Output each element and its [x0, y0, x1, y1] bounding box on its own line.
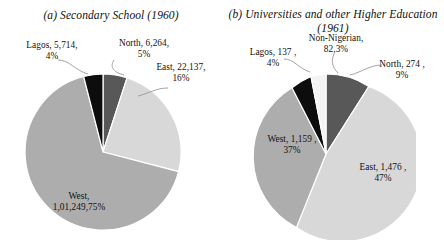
chart-title-b: (b) Universities and other Higher Educat…: [222, 7, 444, 35]
pie-label-west-b: West, 1,159 , 37%: [244, 134, 340, 156]
leader-line-north-a: [108, 58, 136, 78]
chart-panel-universities: (b) Universities and other Higher Educat…: [222, 0, 444, 249]
leader-line-east-a: [138, 86, 168, 100]
leader-line-non-nigerian-b: [326, 53, 348, 75]
pie-label-north-a: North, 6,264, 5%: [98, 38, 190, 60]
chart-panel-secondary-school: (a) Secondary School (1960) Lagos, 5,714…: [0, 0, 222, 249]
pie-label-non-nigerian-b: Non-Nigerian, 82,3%: [284, 33, 388, 55]
pie-label-west-a: West, 1,01,249,75%: [24, 191, 134, 213]
pie-label-east-a: East, 22,137, 16%: [140, 62, 222, 84]
pie-label-lagos-a: Lagos, 5,714, 4%: [4, 40, 100, 62]
chart-title-a: (a) Secondary School (1960): [0, 8, 222, 22]
pie-label-north-b: North, 274 , 9%: [360, 59, 444, 81]
pie-label-east-b: East, 1,476 , 47%: [335, 162, 431, 184]
